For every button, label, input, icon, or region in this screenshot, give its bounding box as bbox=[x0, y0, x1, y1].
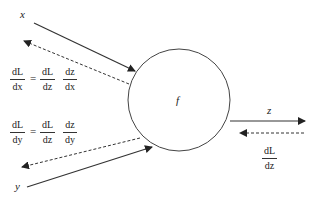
forward-arrow-x bbox=[34, 23, 135, 71]
chain-y-lhs: dL dy bbox=[10, 119, 25, 146]
backprop-diagram: x y f z dL dz dL dx = dL dz dz dx dL dy … bbox=[0, 0, 317, 209]
chain-y-rhs1: dL dz bbox=[40, 119, 55, 146]
chain-x-rhs1: dL dz bbox=[40, 66, 55, 93]
chain-x-equals: = bbox=[30, 72, 36, 84]
forward-arrow-y bbox=[27, 147, 152, 187]
input-label-y: y bbox=[15, 180, 20, 192]
chain-x-lhs: dL dx bbox=[10, 66, 25, 93]
chain-x-rhs2: dz dx bbox=[63, 66, 77, 93]
chain-y-equals: = bbox=[30, 125, 36, 137]
output-label-z: z bbox=[267, 104, 271, 116]
input-label-x: x bbox=[20, 8, 25, 20]
node-label-f: f bbox=[176, 94, 179, 106]
upstream-gradient: dL dz bbox=[262, 145, 277, 172]
chain-y-rhs2: dz dy bbox=[63, 119, 77, 146]
